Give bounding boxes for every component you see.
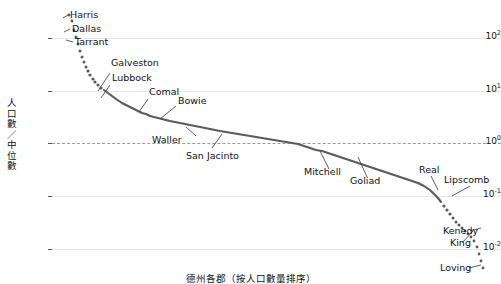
label-real: Real xyxy=(419,164,439,175)
label-mitchell: Mitchell xyxy=(304,166,341,177)
rank-size-chart: 102 101 100 10-1 10-2 人口數／中位數 xyxy=(0,0,501,284)
leader-lines xyxy=(63,15,481,268)
label-harris: Harris xyxy=(70,9,98,20)
label-san-jacinto: San Jacinto xyxy=(186,150,239,161)
x-axis-caption: 德州各郡（按人口數量排序） xyxy=(0,271,501,284)
label-waller: Waller xyxy=(152,134,182,145)
label-goliad: Goliad xyxy=(350,175,380,186)
label-tarrant: Tarrant xyxy=(75,36,108,47)
label-kenedy: Kenedy xyxy=(443,225,478,236)
label-galveston: Galveston xyxy=(111,57,159,68)
label-comal: Comal xyxy=(149,86,179,97)
label-lipscomb: Lipscomb xyxy=(444,174,489,185)
label-bowie: Bowie xyxy=(178,95,207,106)
label-dallas: Dallas xyxy=(72,23,101,34)
label-king: King xyxy=(450,237,471,248)
label-lubbock: Lubbock xyxy=(112,72,152,83)
population-curve xyxy=(104,90,441,202)
